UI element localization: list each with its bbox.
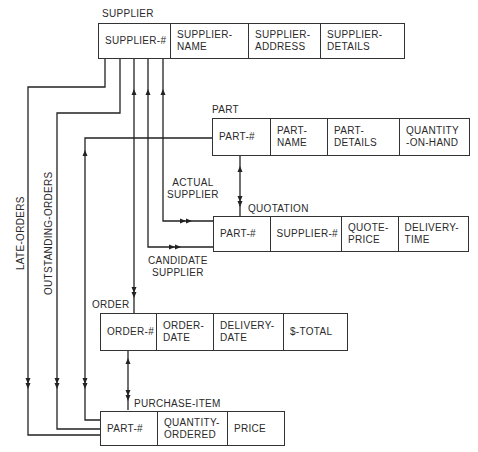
- supplier-field-details: SUPPLIER- DETAILS: [321, 24, 404, 58]
- supplier-entity: SUPPLIER-# SUPPLIER- NAME SUPPLIER- ADDR…: [98, 23, 405, 59]
- supplier-field-id: SUPPLIER-#: [99, 24, 171, 58]
- outstanding-orders-line: [57, 58, 120, 429]
- part-field-id: PART-#: [213, 119, 271, 155]
- order-field-delivery: DELIVERY- DATE: [214, 314, 284, 350]
- part-field-name: PART- NAME: [271, 119, 328, 155]
- supplier-field-address: SUPPLIER- ADDRESS: [249, 24, 321, 58]
- order-field-id: ORDER-#: [101, 314, 157, 350]
- field-label: PART-#: [107, 423, 143, 435]
- field-label: QUANTITY- ORDERED: [164, 417, 220, 441]
- outstanding-orders-label: OUTSTANDING-ORDERS: [43, 171, 54, 295]
- field-label: SUPPLIER- DETAILS: [327, 29, 383, 53]
- purchase-item-entity: PART-# QUANTITY- ORDERED PRICE: [100, 411, 285, 446]
- field-label: PRICE: [234, 423, 266, 435]
- quotation-field-price: QUOTE- PRICE: [342, 217, 399, 251]
- quotation-entity: PART-# SUPPLIER-# QUOTE- PRICE DELIVERY-…: [213, 216, 469, 252]
- late-orders-label: LATE-ORDERS: [15, 196, 26, 270]
- field-label: PART- DETAILS: [334, 125, 377, 149]
- field-label: SUPPLIER-#: [277, 228, 338, 240]
- field-label: DELIVERY- TIME: [405, 222, 459, 246]
- supplier-field-name: SUPPLIER- NAME: [171, 24, 249, 58]
- supplier-entity-title: SUPPLIER: [102, 8, 154, 19]
- field-label: SUPPLIER- ADDRESS: [255, 29, 311, 53]
- field-label: ORDER- DATE: [163, 320, 204, 344]
- field-label: SUPPLIER- NAME: [177, 29, 233, 53]
- field-label: QUOTE- PRICE: [348, 222, 389, 246]
- actual-supplier-label: ACTUAL SUPPLIER: [167, 177, 219, 201]
- field-label: SUPPLIER-#: [105, 35, 166, 47]
- candidate-supplier-label: CANDIDATE SUPPLIER: [148, 255, 208, 279]
- quotation-entity-title: QUOTATION: [248, 203, 309, 214]
- order-entity: ORDER-# ORDER- DATE DELIVERY- DATE $-TOT…: [100, 313, 348, 351]
- quotation-field-supplier: SUPPLIER-#: [271, 217, 342, 251]
- order-entity-title: ORDER: [92, 299, 130, 310]
- quotation-field-delivery: DELIVERY- TIME: [399, 217, 468, 251]
- purchase-item-entity-title: PURCHASE-ITEM: [134, 398, 221, 409]
- candidate-supplier-line: [148, 58, 213, 247]
- quotation-field-part: PART-#: [214, 217, 271, 251]
- field-label: $-TOTAL: [290, 326, 332, 338]
- field-label: DELIVERY- DATE: [220, 320, 274, 344]
- late-orders-line: [28, 58, 105, 435]
- field-label: QUANTITY -ON-HAND: [406, 125, 459, 149]
- field-label: ORDER-#: [107, 326, 154, 338]
- part-field-details: PART- DETAILS: [328, 119, 400, 155]
- purchase-item-field-price: PRICE: [228, 412, 284, 445]
- field-label: PART-#: [220, 228, 256, 240]
- order-field-total: $-TOTAL: [284, 314, 347, 350]
- field-label: PART-#: [219, 131, 255, 143]
- part-entity-title: PART: [212, 104, 239, 115]
- purchase-item-field-part: PART-#: [101, 412, 158, 445]
- purchase-item-field-quantity: QUANTITY- ORDERED: [158, 412, 228, 445]
- order-field-date: ORDER- DATE: [157, 314, 214, 350]
- part-entity: PART-# PART- NAME PART- DETAILS QUANTITY…: [212, 118, 470, 156]
- field-label: PART- NAME: [277, 125, 307, 149]
- part-field-quantity: QUANTITY -ON-HAND: [400, 119, 469, 155]
